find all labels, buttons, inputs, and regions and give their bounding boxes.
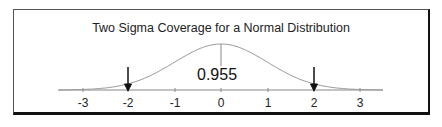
coverage-value: 0.955 (197, 66, 237, 84)
tick-label: -3 (68, 96, 98, 110)
tick-label: -1 (160, 96, 190, 110)
arrow-plus-2 (311, 67, 318, 91)
tick-label: 0 (206, 96, 236, 110)
tick-label: -2 (113, 96, 143, 110)
tick-label: 2 (299, 96, 329, 110)
tick-label: 3 (345, 96, 375, 110)
arrow-minus-2 (125, 67, 132, 91)
tick-label: 1 (253, 96, 283, 110)
